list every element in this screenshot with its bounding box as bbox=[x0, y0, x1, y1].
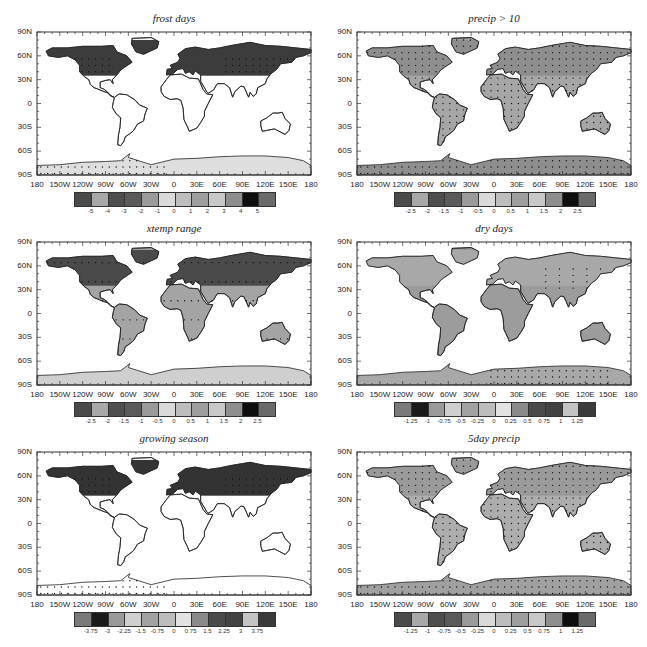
lat-tick-label: 0 bbox=[6, 99, 32, 108]
lat-tick-label: 0 bbox=[6, 309, 32, 318]
colorbar-swatch bbox=[243, 193, 260, 206]
lat-tick-label: 30S bbox=[326, 122, 352, 131]
colorbar-swatch bbox=[159, 613, 176, 626]
colorbar-swatch bbox=[529, 403, 546, 416]
colorbar-swatch bbox=[479, 193, 496, 206]
colorbar-swatch bbox=[512, 193, 529, 206]
lat-tick-label: 60N bbox=[326, 471, 352, 480]
lat-tick-label: 60N bbox=[6, 51, 32, 60]
lat-tick-label: 90S bbox=[6, 380, 32, 389]
colorbar-swatch bbox=[445, 403, 462, 416]
lat-tick-label: 90N bbox=[6, 237, 32, 246]
colorbar-swatch bbox=[125, 613, 142, 626]
colorbar bbox=[74, 192, 276, 207]
colorbar bbox=[74, 402, 276, 417]
lat-tick-label: 60S bbox=[326, 356, 352, 365]
colorbar-swatch bbox=[142, 403, 159, 416]
colorbar-swatch bbox=[445, 613, 462, 626]
colorbar-swatch bbox=[429, 403, 446, 416]
lat-tick-label: 90N bbox=[6, 27, 32, 36]
lat-tick-label: 0 bbox=[326, 99, 352, 108]
colorbar-swatch bbox=[479, 613, 496, 626]
colorbar-swatch bbox=[579, 193, 595, 206]
colorbar-swatch bbox=[109, 193, 126, 206]
colorbar-label: 1.25 bbox=[567, 418, 587, 424]
colorbar-swatch bbox=[192, 193, 209, 206]
colorbar-swatch bbox=[192, 403, 209, 416]
colorbar bbox=[394, 612, 596, 627]
continent-australia bbox=[581, 322, 611, 344]
colorbar-swatch bbox=[563, 193, 580, 206]
colorbar-label: 5 bbox=[247, 208, 267, 214]
colorbar-swatch bbox=[259, 613, 275, 626]
colorbar-swatch bbox=[395, 193, 412, 206]
lat-tick-label: 60S bbox=[6, 146, 32, 155]
colorbar-swatch bbox=[75, 193, 92, 206]
continent-australia bbox=[581, 532, 611, 554]
lat-tick-label: 30N bbox=[6, 285, 32, 294]
colorbar-swatch bbox=[546, 613, 563, 626]
colorbar-swatch bbox=[512, 403, 529, 416]
lon-tick-label: 180 bbox=[616, 600, 646, 609]
lon-tick-label: 180 bbox=[616, 180, 646, 189]
colorbar-swatch bbox=[209, 613, 226, 626]
continent-samerica bbox=[112, 94, 147, 146]
map-panel-frost-days: frost days 90N60N30N030S60S90S180150W120… bbox=[0, 12, 323, 224]
lat-tick-label: 30S bbox=[326, 332, 352, 341]
colorbar-swatch bbox=[462, 193, 479, 206]
lat-tick-label: 60S bbox=[6, 566, 32, 575]
colorbar-swatch bbox=[579, 403, 595, 416]
lat-tick-label: 30N bbox=[326, 75, 352, 84]
colorbar-swatch bbox=[395, 613, 412, 626]
colorbar-swatch bbox=[563, 613, 580, 626]
map-panel-xtemp-range: xtemp range 90N60N30N030S60S90S180150W12… bbox=[0, 222, 323, 434]
lat-tick-label: 60S bbox=[326, 146, 352, 155]
colorbar-swatch bbox=[75, 613, 92, 626]
colorbar-swatch bbox=[445, 193, 462, 206]
lat-tick-label: 90N bbox=[326, 237, 352, 246]
colorbar-swatch bbox=[412, 613, 429, 626]
lat-tick-label: 90S bbox=[326, 380, 352, 389]
colorbar-swatch bbox=[479, 403, 496, 416]
colorbar-swatch bbox=[176, 193, 193, 206]
colorbar-swatch bbox=[92, 613, 109, 626]
colorbar-swatch bbox=[259, 403, 275, 416]
colorbar-swatch bbox=[142, 193, 159, 206]
colorbar-swatch bbox=[512, 613, 529, 626]
colorbar-swatch bbox=[412, 193, 429, 206]
colorbar-swatch bbox=[109, 613, 126, 626]
colorbar-swatch bbox=[92, 193, 109, 206]
colorbar-swatch bbox=[563, 403, 580, 416]
lat-tick-label: 60S bbox=[326, 566, 352, 575]
lat-tick-label: 60N bbox=[326, 51, 352, 60]
colorbar-swatch bbox=[496, 403, 513, 416]
continent-australia bbox=[581, 112, 611, 134]
lat-tick-label: 30N bbox=[6, 495, 32, 504]
map-panel-precip-gt-10: precip > 10 90N60N30N030S60S90S180150W12… bbox=[320, 12, 643, 224]
map-panel-5day-precip: 5day precip 90N60N30N030S60S90S180150W12… bbox=[320, 432, 643, 644]
continent-samerica bbox=[112, 514, 147, 566]
colorbar-swatch bbox=[243, 613, 260, 626]
lat-tick-label: 30N bbox=[326, 495, 352, 504]
colorbar-swatch bbox=[176, 403, 193, 416]
lat-tick-label: 30S bbox=[6, 332, 32, 341]
continent-australia bbox=[261, 112, 291, 134]
map-panel-growing-season: growing season 90N60N30N030S60S90S180150… bbox=[0, 432, 323, 644]
lat-tick-label: 60S bbox=[6, 356, 32, 365]
lat-tick-label: 0 bbox=[6, 519, 32, 528]
colorbar-swatch bbox=[75, 403, 92, 416]
continent-australia bbox=[261, 322, 291, 344]
colorbar-swatch bbox=[496, 613, 513, 626]
lat-tick-label: 0 bbox=[326, 309, 352, 318]
colorbar-swatch bbox=[209, 193, 226, 206]
colorbar-swatch bbox=[176, 613, 193, 626]
colorbar-label: 3.75 bbox=[247, 628, 267, 634]
continent-samerica bbox=[112, 304, 147, 356]
continent-samerica bbox=[432, 514, 467, 566]
colorbar bbox=[74, 612, 276, 627]
colorbar-label: 2.5 bbox=[567, 208, 587, 214]
colorbar-swatch bbox=[109, 403, 126, 416]
colorbar-swatch bbox=[462, 613, 479, 626]
colorbar-swatch bbox=[226, 613, 243, 626]
lat-tick-label: 30S bbox=[6, 122, 32, 131]
